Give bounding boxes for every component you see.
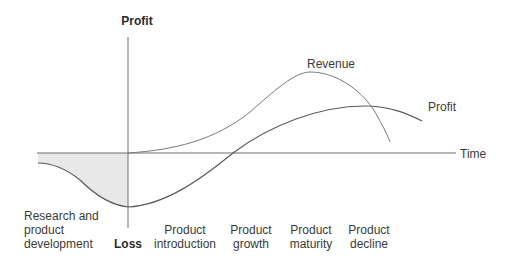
stage-label-line: maturity	[290, 237, 333, 251]
stage-label-line: development	[24, 237, 93, 251]
stage-label-line: Product	[164, 223, 206, 237]
profit-curve-label: Profit	[428, 100, 457, 114]
stage-label-line: decline	[350, 237, 388, 251]
stage-label-line: product	[24, 223, 65, 237]
y-axis-bottom-label: Loss	[114, 237, 142, 251]
profit-curve	[128, 106, 422, 207]
stage-label-line: Product	[290, 223, 332, 237]
stage-growth: Product growth	[230, 223, 272, 251]
stage-label-line: Research and	[24, 209, 99, 223]
revenue-curve-label: Revenue	[307, 57, 355, 71]
stage-label-line: Product	[348, 223, 390, 237]
revenue-curve	[128, 72, 390, 153]
stage-research-development: Research and product development	[24, 209, 99, 251]
stage-introduction: Product introduction	[154, 223, 216, 251]
product-life-cycle-diagram: Profit Loss Time Revenue Profit Research…	[0, 0, 509, 268]
x-axis-label: Time	[460, 147, 487, 161]
stage-label-line: introduction	[154, 237, 216, 251]
rnd-loss-area	[38, 153, 128, 207]
stage-label-line: growth	[233, 237, 269, 251]
y-axis-top-label: Profit	[121, 14, 152, 28]
stage-label-line: Product	[230, 223, 272, 237]
stage-maturity: Product maturity	[290, 223, 333, 251]
stage-decline: Product decline	[348, 223, 390, 251]
